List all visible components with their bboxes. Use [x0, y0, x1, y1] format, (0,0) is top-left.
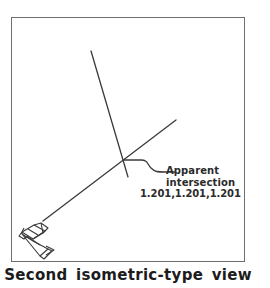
steep-3d-line	[91, 51, 128, 177]
annotation-label-line-1: Apparent	[140, 165, 244, 177]
ucs-isometric-icon	[19, 223, 54, 259]
drawing-canvas	[0, 0, 270, 288]
ucs-arrowhead-upper-tip	[33, 223, 43, 239]
figure-caption: Second isometric-type view	[0, 266, 256, 284]
annotation-coordinates: 1.201,1.201,1.201	[140, 188, 244, 200]
apparent-intersection-annotation: Apparent intersection 1.201,1.201,1.201	[140, 165, 244, 200]
figure-root: Apparent intersection 1.201,1.201,1.201 …	[0, 0, 270, 288]
annotation-label-line-2: intersection	[140, 177, 244, 189]
